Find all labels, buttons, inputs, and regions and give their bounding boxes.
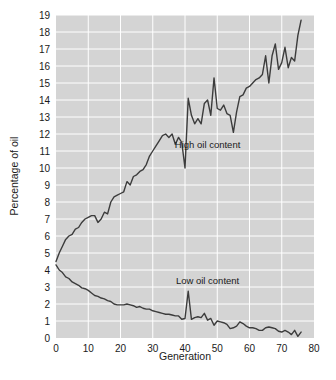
chart-figure: 012345678910111213141516171819 010203040… [0, 0, 336, 380]
y-tick-label: 5 [44, 248, 50, 259]
y-tick-label: 3 [44, 282, 50, 293]
x-axis-title: Generation [159, 350, 211, 362]
x-tick-label: 80 [308, 343, 320, 354]
y-tick-label: 16 [39, 61, 51, 72]
y-tick-label: 0 [44, 333, 50, 344]
annotation-label: Low oil content [176, 275, 240, 286]
y-tick-label: 10 [39, 163, 51, 174]
y-tick-label: 12 [39, 129, 51, 140]
y-tick-label: 18 [39, 27, 51, 38]
x-tick-label: 20 [115, 343, 127, 354]
y-tick-label: 19 [39, 10, 51, 21]
y-tick-label: 7 [44, 214, 50, 225]
x-tick-label: 50 [212, 343, 224, 354]
y-tick-label: 4 [44, 265, 50, 276]
x-tick-label: 60 [244, 343, 256, 354]
x-tick-label: 30 [147, 343, 159, 354]
y-tick-label: 8 [44, 197, 50, 208]
y-axis-tick-labels: 012345678910111213141516171819 [39, 10, 51, 344]
annotation-label: High oil content [175, 139, 241, 150]
y-tick-label: 1 [44, 316, 50, 327]
y-axis-title: Percentage of oil [8, 137, 20, 216]
y-tick-label: 15 [39, 78, 51, 89]
x-tick-label: 10 [83, 343, 95, 354]
x-tick-label: 0 [53, 343, 59, 354]
oil-percentage-line-chart: 012345678910111213141516171819 010203040… [0, 0, 336, 380]
y-tick-label: 9 [44, 180, 50, 191]
y-tick-label: 13 [39, 112, 51, 123]
y-tick-label: 17 [39, 44, 51, 55]
y-tick-label: 14 [39, 95, 51, 106]
x-tick-label: 70 [276, 343, 288, 354]
y-tick-label: 11 [40, 146, 51, 157]
y-tick-label: 6 [44, 231, 50, 242]
y-tick-label: 2 [44, 299, 50, 310]
